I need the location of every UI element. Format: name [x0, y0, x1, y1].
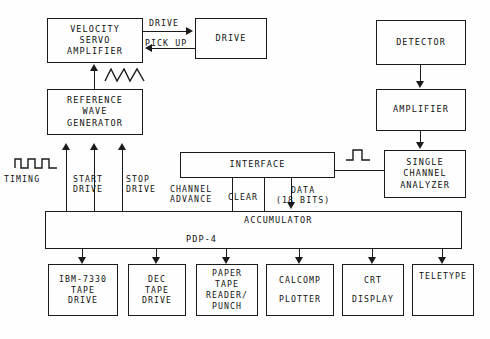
arrowhead-drive-out	[186, 27, 193, 35]
stop-drive-line-1: STOP	[126, 174, 156, 184]
channel-advance-line-2: ADVANCE	[170, 194, 212, 204]
paper-tape-reader-punch-line-2: TAPE	[215, 279, 239, 290]
paper-tape-reader-punch-line-1: PAPER	[212, 268, 242, 279]
clear-signal-label: CLEAR	[228, 192, 258, 202]
single-channel-analyzer-line-3: ANALYZER	[400, 180, 450, 191]
data-signal-label: DATA (18 BITS)	[276, 185, 330, 206]
dec-tape-drive-box[interactable]: DEC TAPE DRIVE	[128, 264, 186, 316]
arrowhead-to-teletype	[438, 257, 446, 264]
drive-box[interactable]: DRIVE	[195, 18, 267, 59]
paper-tape-reader-punch-box[interactable]: PAPER TAPE READER/ PUNCH	[196, 264, 258, 316]
ibm-7330-tape-drive-line-1: IBM-7330	[59, 274, 107, 285]
arrowhead-to-calcomp	[295, 257, 303, 264]
ibm-7330-tape-drive-line-2: TAPE	[71, 285, 95, 296]
paper-tape-reader-punch-line-3: READER/	[206, 290, 248, 301]
arrowhead-to-ibm-tape	[78, 257, 86, 264]
reference-wave-generator-line-3: GENERATOR	[67, 118, 123, 129]
pick-up-signal-label: PICK UP	[145, 38, 187, 48]
detector-box-label: DETECTOR	[396, 37, 446, 48]
arrowhead-to-paper-tape	[222, 257, 230, 264]
connector-detector-to-amplifier	[420, 65, 421, 82]
reference-wave-generator-line-2: WAVE	[83, 106, 108, 117]
timing-signal-label: TIMING	[4, 174, 40, 184]
calcomp-plotter-line-2: PLOTTER	[279, 294, 321, 305]
connector-analyzer-to-interface	[335, 170, 384, 171]
crt-display-line-1: CRT	[364, 275, 382, 286]
single-channel-analyzer-line-2: CHANNEL	[403, 168, 447, 179]
drive-box-label: DRIVE	[215, 33, 246, 44]
ibm-7330-tape-drive-line-3: DRIVE	[68, 295, 98, 306]
stop-drive-signal-label: STOP DRIVE	[126, 174, 156, 195]
single-channel-analyzer-line-1: SINGLE	[406, 157, 443, 168]
interface-box[interactable]: INTERFACE	[180, 152, 335, 178]
reference-wave-generator-box[interactable]: REFERENCE WAVE GENERATOR	[47, 89, 143, 135]
channel-advance-signal-label: CHANNEL ADVANCE	[170, 184, 212, 205]
calcomp-plotter-line-1: CALCOMP	[279, 275, 321, 286]
start-drive-signal-label: START DRIVE	[73, 174, 103, 195]
amplifier-box-label: AMPLIFIER	[393, 104, 449, 115]
dec-tape-drive-line-2: TAPE	[145, 285, 169, 296]
connector-drive-out	[143, 31, 187, 32]
start-drive-line-1: START	[73, 174, 103, 184]
teletype-box-label: TELETYPE	[419, 271, 467, 282]
arrowhead-detector-to-amplifier	[416, 81, 424, 88]
pdp-4-label: PDP-4	[186, 234, 217, 244]
detector-box[interactable]: DETECTOR	[376, 20, 466, 65]
ibm-7330-tape-drive-box[interactable]: IBM-7330 TAPE DRIVE	[48, 264, 118, 316]
reference-triangle-wave-icon	[104, 66, 146, 83]
arrowhead-to-dec-tape	[152, 257, 160, 264]
arrowhead-amplifier-to-analyzer	[416, 142, 424, 149]
teletype-box[interactable]: TELETYPE	[412, 264, 474, 316]
velocity-servo-amplifier-box[interactable]: VELOCITY SERVO AMPLIFIER	[47, 18, 143, 63]
data-line-1: DATA	[276, 185, 330, 195]
data-line-2: (18 BITS)	[276, 195, 330, 205]
amplifier-box[interactable]: AMPLIFIER	[376, 89, 466, 131]
reference-wave-generator-line-1: REFERENCE	[67, 95, 123, 106]
start-drive-line-2: DRIVE	[73, 184, 103, 194]
dec-tape-drive-line-3: DRIVE	[142, 295, 172, 306]
arrowhead-start-drive	[90, 143, 98, 150]
interface-box-label: INTERFACE	[230, 159, 286, 170]
channel-advance-line-1: CHANNEL	[170, 184, 212, 194]
crt-display-line-2: DISPLAY	[352, 294, 394, 305]
velocity-servo-amplifier-line-1: VELOCITY	[70, 24, 120, 35]
connector-clear	[264, 178, 265, 211]
velocity-servo-amplifier-line-3: AMPLIFIER	[67, 46, 123, 57]
timing-square-wave-icon	[14, 155, 58, 171]
dec-tape-drive-line-1: DEC	[148, 274, 166, 285]
arrowhead-stop-drive	[118, 143, 126, 150]
crt-display-box[interactable]: CRT DISPLAY	[342, 264, 404, 316]
analyzer-pulse-icon	[345, 148, 371, 162]
block-diagram: VELOCITY SERVO AMPLIFIER DRIVE REFERENCE…	[0, 0, 490, 339]
stop-drive-line-2: DRIVE	[126, 184, 156, 194]
drive-signal-label: DRIVE	[149, 18, 179, 28]
arrowhead-refwave-to-servo	[90, 64, 98, 71]
arrowhead-to-crt	[368, 257, 376, 264]
connector-timing	[66, 150, 67, 211]
paper-tape-reader-punch-line-4: PUNCH	[212, 301, 242, 312]
accumulator-label: ACCUMULATOR	[244, 215, 312, 225]
connector-refwave-to-servo	[94, 71, 95, 89]
single-channel-analyzer-box[interactable]: SINGLE CHANNEL ANALYZER	[384, 150, 466, 198]
calcomp-plotter-box[interactable]: CALCOMP PLOTTER	[266, 264, 334, 316]
connector-stop-drive	[122, 150, 123, 211]
arrowhead-timing	[62, 143, 70, 150]
velocity-servo-amplifier-line-2: SERVO	[79, 35, 110, 46]
